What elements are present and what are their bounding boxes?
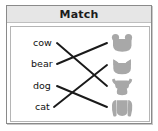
match-exercise-screenshot: Match <box>0 0 158 131</box>
cat-head-icon[interactable] <box>113 59 131 74</box>
connector-line-cat-to-cat-picture[interactable] <box>54 65 107 107</box>
dog-head-icon[interactable] <box>112 100 132 117</box>
match-card: Match <box>6 5 152 124</box>
bear-head-icon[interactable] <box>112 34 132 52</box>
word-label-cat[interactable]: cat <box>35 102 50 112</box>
connector-layer <box>7 6 153 125</box>
connector-line-bear-to-bear-picture[interactable] <box>57 43 107 64</box>
word-label-bear[interactable]: bear <box>31 59 53 69</box>
connector-line-cow-to-cow-picture[interactable] <box>57 43 107 86</box>
cow-head-icon[interactable] <box>112 79 132 96</box>
word-label-dog[interactable]: dog <box>33 81 51 91</box>
word-label-cow[interactable]: cow <box>33 38 52 48</box>
connector-lines <box>54 43 107 107</box>
connector-line-dog-to-dog-picture[interactable] <box>57 86 107 107</box>
